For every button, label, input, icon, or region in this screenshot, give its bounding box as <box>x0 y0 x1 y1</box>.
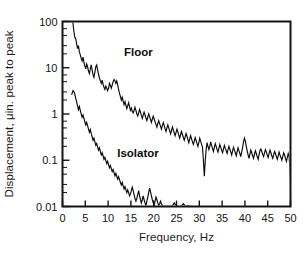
floor-trace <box>67 5 290 185</box>
svg-text:15: 15 <box>125 212 137 224</box>
svg-text:0.1: 0.1 <box>42 154 57 166</box>
svg-text:100: 100 <box>39 16 57 28</box>
floor-series-label: Floor <box>124 46 153 58</box>
svg-text:30: 30 <box>193 212 205 224</box>
isolator-series-label: Isolator <box>117 147 159 159</box>
svg-text:25: 25 <box>170 212 182 224</box>
svg-text:35: 35 <box>216 212 228 224</box>
plot-frame <box>63 22 291 207</box>
x-axis-title: Frequency, Hz <box>139 231 214 243</box>
x-axis-tick-labels: 05101520253035404550 <box>59 212 296 224</box>
trace-group <box>67 5 290 207</box>
y-axis-tick-labels: 0.010.1110100 <box>36 16 57 213</box>
y-axis-major-ticks <box>63 22 70 207</box>
svg-text:50: 50 <box>284 212 296 224</box>
svg-text:10: 10 <box>45 62 57 74</box>
svg-text:0: 0 <box>59 212 65 224</box>
svg-text:40: 40 <box>239 212 251 224</box>
svg-text:20: 20 <box>148 212 160 224</box>
displacement-vs-frequency-chart: 0.010.1110100 05101520253035404550 Floor… <box>0 0 307 254</box>
svg-text:1: 1 <box>51 108 57 120</box>
svg-text:0.01: 0.01 <box>36 201 57 213</box>
y-axis-title: Displacement, μin. peak to peak <box>3 30 15 197</box>
figure-container: 0.010.1110100 05101520253035404550 Floor… <box>0 0 307 254</box>
svg-text:10: 10 <box>102 212 114 224</box>
svg-text:5: 5 <box>82 212 88 224</box>
svg-text:45: 45 <box>262 212 274 224</box>
